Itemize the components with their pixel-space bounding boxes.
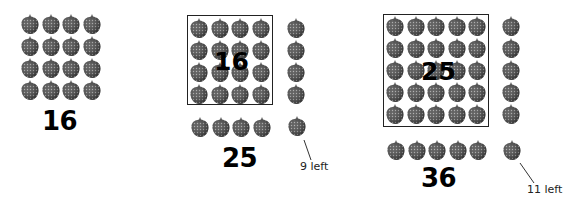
leftover-note-11: 11 left bbox=[527, 184, 562, 196]
group-36: 25 11 left 36 bbox=[0, 0, 581, 208]
leftover-pointer-line bbox=[0, 0, 581, 208]
group-36-total-label: 36 bbox=[421, 165, 456, 191]
